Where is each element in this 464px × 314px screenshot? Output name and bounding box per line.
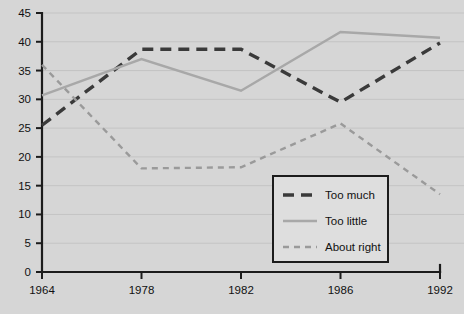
series-line-about-right xyxy=(42,65,440,195)
y-tick-label: 45 xyxy=(18,7,31,19)
x-tick-label: 1982 xyxy=(228,284,254,296)
x-tick-label: 1978 xyxy=(129,284,155,296)
x-tick-label: 1964 xyxy=(29,284,55,296)
y-tick-label: 0 xyxy=(25,266,31,278)
x-axis-tick-labels: 19641978198219861992 xyxy=(29,284,453,296)
y-tick-label: 30 xyxy=(18,93,31,105)
line-chart: 051015202530354045 19641978198219861992 … xyxy=(0,0,464,314)
y-tick-label: 35 xyxy=(18,65,31,77)
x-tick-label: 1986 xyxy=(328,284,354,296)
y-tick-label: 5 xyxy=(25,237,31,249)
y-tick-label: 10 xyxy=(18,208,31,220)
chart-container: 051015202530354045 19641978198219861992 … xyxy=(0,0,464,314)
series-line-too-much xyxy=(42,43,440,125)
legend-label-too-much: Too much xyxy=(325,189,375,201)
y-tick-label: 25 xyxy=(18,122,31,134)
legend-label-too-little: Too little xyxy=(325,215,367,227)
y-tick-label: 15 xyxy=(18,180,31,192)
x-tick-label: 1992 xyxy=(427,284,453,296)
gridlines xyxy=(42,13,464,243)
chart-legend: Too muchToo littleAbout right xyxy=(273,176,388,262)
y-axis-tick-labels: 051015202530354045 xyxy=(18,7,31,278)
y-tick-label: 20 xyxy=(18,151,31,163)
data-series xyxy=(42,32,440,194)
y-tick-label: 40 xyxy=(18,36,31,48)
legend-label-about-right: About right xyxy=(325,241,381,253)
